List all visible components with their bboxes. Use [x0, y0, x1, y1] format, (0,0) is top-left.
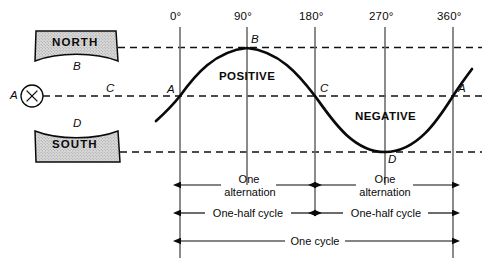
waveform-diagram: NORTH SOUTH B D A X C 0° 90° 180° 270° 3… — [0, 0, 495, 271]
curve-point-c: C — [320, 82, 328, 94]
degree-tick-360: 360° — [437, 10, 462, 22]
curve-point-b: B — [251, 33, 259, 45]
conductor-label-a: A — [10, 89, 18, 101]
annotation-half-cycle-2: One-half cycle — [344, 207, 428, 220]
region-label-positive: POSITIVE — [219, 70, 275, 82]
point-label-c-axis: C — [106, 82, 114, 94]
degree-tick-0: 0° — [170, 10, 181, 22]
curve-point-a-end: A — [458, 82, 466, 94]
annotation-alternation-2-line2: alternation — [347, 186, 423, 199]
south-pole-label: SOUTH — [52, 138, 98, 150]
region-label-negative: NEGATIVE — [355, 110, 416, 122]
annotation-half-cycle-1: One-half cycle — [206, 207, 290, 220]
north-pole-label: NORTH — [52, 36, 98, 48]
annotation-alternation-1-line1: One — [222, 173, 276, 186]
degree-tick-90: 90° — [234, 10, 252, 22]
curve-point-d: D — [388, 153, 396, 165]
curve-point-a-start: A — [167, 83, 175, 95]
annotation-alternation-1-line2: alternation — [212, 186, 288, 199]
sine-wave-curve — [156, 48, 472, 152]
point-label-b-pole: B — [73, 60, 81, 72]
degree-tick-180: 180° — [299, 10, 324, 22]
conductor-circle-icon — [21, 85, 43, 107]
annotation-one-cycle: One cycle — [287, 235, 343, 248]
annotation-alternation-2-line1: One — [358, 173, 412, 186]
degree-tick-270: 270° — [369, 10, 394, 22]
point-label-d-pole: D — [73, 117, 81, 129]
